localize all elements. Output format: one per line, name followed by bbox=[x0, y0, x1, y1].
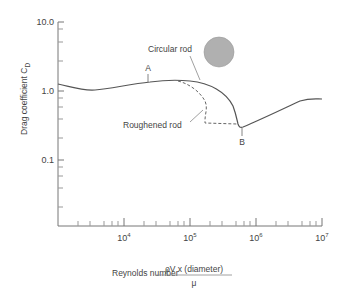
y-tick-label: 1.0 bbox=[41, 86, 54, 96]
x-tick-label: 107 bbox=[315, 232, 329, 243]
roughened-rod-curve bbox=[178, 81, 237, 124]
y-tick-label: 0.1 bbox=[41, 155, 54, 165]
formula-numerator: ρV x (diameter) bbox=[165, 264, 223, 274]
roughened-rod-label: Roughened rod bbox=[123, 120, 182, 130]
x-ticks bbox=[78, 218, 322, 226]
annotation-b: B bbox=[239, 137, 245, 147]
x-tick-label: 104 bbox=[117, 232, 131, 243]
svg-text:Drag coefficient CD: Drag coefficient CD bbox=[19, 63, 31, 135]
y-minor-ticks bbox=[58, 29, 63, 207]
drag-coefficient-chart: 10.0 1.0 0.1 Drag coefficient CD bbox=[0, 0, 346, 298]
circular-rod-leader bbox=[190, 56, 200, 80]
x-tick-label: 105 bbox=[183, 232, 197, 243]
roughened-rod-leader bbox=[190, 110, 203, 122]
annotation-a: A bbox=[145, 63, 151, 73]
y-tick-label: 10.0 bbox=[36, 17, 54, 27]
y-axis-label: Drag coefficient CD bbox=[19, 63, 31, 135]
circular-rod-curve bbox=[58, 80, 322, 127]
formula-denominator: μ bbox=[192, 278, 197, 288]
circular-rod-label: Circular rod bbox=[148, 44, 192, 54]
rod-cross-section-icon bbox=[204, 37, 234, 67]
x-tick-label: 106 bbox=[249, 232, 263, 243]
